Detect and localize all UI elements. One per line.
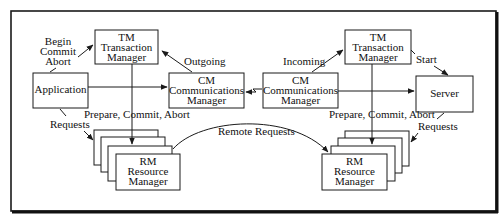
arrow-cm-to-cm — [246, 89, 262, 92]
outgoing-edge: Outgoing — [162, 51, 226, 72]
tick-start — [411, 50, 415, 54]
start-label: Start — [416, 53, 437, 65]
incoming-label: Incoming — [283, 55, 326, 67]
tick-requests-right — [437, 113, 444, 119]
application-box: Application — [33, 73, 88, 108]
rm-left-stack: RM Resource Manager — [94, 130, 180, 190]
cm-left-name-2: Manager — [187, 94, 226, 106]
prepare-label-left: Prepare, Commit, Abort — [84, 108, 190, 120]
tm-left-box: TM Transaction Manager — [95, 30, 158, 64]
arrow-requests-to-rm-left — [84, 131, 93, 140]
architecture-diagram: TM Transaction Manager Application Begin… — [0, 0, 504, 222]
arrow-tm-to-server — [434, 66, 448, 75]
cm-left-box: CM Communications Manager — [169, 73, 244, 108]
start-edge: Start — [411, 50, 448, 75]
cm-right-box: CM Communications Manager — [263, 73, 338, 108]
application-label: Application — [35, 83, 87, 95]
requests-left-label: Requests — [50, 118, 90, 130]
prepare-label-right: Prepare, Commit, Abort — [329, 108, 435, 120]
tm-right-box: TM Transaction Manager — [345, 30, 411, 64]
outgoing-label: Outgoing — [184, 55, 226, 67]
remote-requests-edge: Remote Requests — [173, 124, 328, 152]
abort-label: Abort — [45, 55, 71, 67]
tm-right-name-2: Manager — [358, 51, 397, 63]
tick-requests-left — [60, 109, 66, 116]
server-label: Server — [430, 87, 459, 99]
incoming-edge: Incoming — [283, 50, 343, 72]
app-to-tm-edge: Begin Commit Abort — [40, 35, 93, 72]
cm-right-name-2: Manager — [281, 94, 320, 106]
remote-requests-label: Remote Requests — [218, 125, 295, 137]
arrow-requests-to-rm-right — [411, 133, 418, 142]
requests-right-label: Requests — [418, 120, 458, 132]
tm-left-name-2: Manager — [107, 51, 146, 63]
rm-left-name-2: Manager — [128, 175, 167, 187]
server-box: Server — [416, 76, 473, 112]
rm-right-stack: RM Resource Manager — [322, 131, 409, 190]
rm-right-name-2: Manager — [335, 175, 374, 187]
arrow-to-tm-left — [78, 45, 93, 57]
tick-app-label — [50, 68, 56, 72]
